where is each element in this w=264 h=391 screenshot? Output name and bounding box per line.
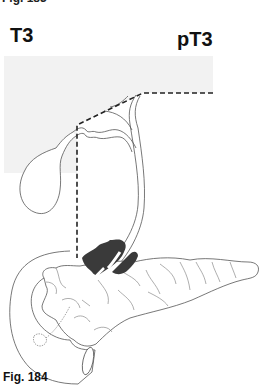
dashed-boundary-line (77, 93, 213, 258)
pancreas (42, 258, 259, 346)
cystic-duct (73, 128, 136, 148)
shaded-region (4, 56, 213, 173)
anatomical-illustration (0, 0, 264, 391)
hepatic-duct-left (104, 111, 132, 130)
figure-caption: Fig. 184 (3, 370, 48, 384)
